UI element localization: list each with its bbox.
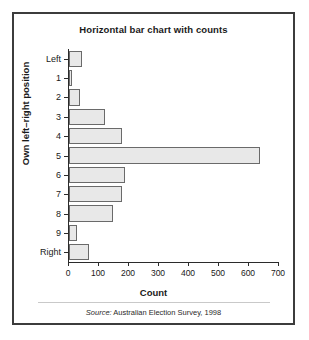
bar-row <box>69 165 279 184</box>
bar-row <box>69 49 279 68</box>
figure-canvas: Horizontal bar chart with counts Left123… <box>0 0 309 340</box>
bar-3 <box>69 109 105 125</box>
y-tick-label-9: 9 <box>56 228 61 238</box>
bar-row <box>69 223 279 242</box>
source-divider <box>38 302 270 303</box>
y-tick <box>64 252 68 253</box>
bar-row <box>69 88 279 107</box>
y-tick-label-right: Right <box>40 247 61 257</box>
source-note: Source: Australian Election Survey, 1998 <box>12 308 295 317</box>
y-tick-label-1: 1 <box>56 73 61 83</box>
x-tick <box>248 262 249 266</box>
bar-row <box>69 146 279 165</box>
source-label: Source: <box>86 308 112 317</box>
x-tick-label-200: 200 <box>121 268 135 278</box>
x-tick <box>158 262 159 266</box>
bar-1 <box>69 70 72 86</box>
y-tick-label-8: 8 <box>56 209 61 219</box>
source-value: Australian Election Survey, 1998 <box>112 308 222 317</box>
bar-7 <box>69 186 122 202</box>
x-tick <box>218 262 219 266</box>
x-tick <box>68 262 69 266</box>
y-tick <box>64 117 68 118</box>
y-tick <box>64 194 68 195</box>
bar-4 <box>69 128 122 144</box>
x-tick-label-700: 700 <box>271 268 285 278</box>
y-tick <box>64 156 68 157</box>
bar-8 <box>69 205 113 221</box>
bar-right <box>69 244 89 260</box>
y-tick <box>64 78 68 79</box>
x-tick <box>188 262 189 266</box>
x-tick-label-0: 0 <box>66 268 71 278</box>
y-tick-label-left: Left <box>46 54 61 64</box>
bar-5 <box>69 147 260 163</box>
bar-9 <box>69 225 77 241</box>
bar-row <box>69 185 279 204</box>
y-tick <box>64 233 68 234</box>
y-tick <box>64 175 68 176</box>
y-axis-title: Own left–right position <box>20 29 31 199</box>
x-tick-label-500: 500 <box>211 268 225 278</box>
y-tick <box>64 59 68 60</box>
plot-area: Left123456789Right 010020030040050060070… <box>68 49 278 262</box>
chart-title: Horizontal bar chart with counts <box>12 24 295 35</box>
x-tick <box>128 262 129 266</box>
y-tick-label-7: 7 <box>56 189 61 199</box>
bar-row <box>69 243 279 262</box>
x-tick-label-400: 400 <box>181 268 195 278</box>
bar-row <box>69 204 279 223</box>
x-tick <box>278 262 279 266</box>
x-axis-title: Count <box>12 287 295 298</box>
bar-series <box>69 49 279 262</box>
y-tick-label-6: 6 <box>56 170 61 180</box>
y-tick <box>64 214 68 215</box>
bar-2 <box>69 89 80 105</box>
y-tick-label-4: 4 <box>56 131 61 141</box>
y-tick <box>64 136 68 137</box>
y-tick <box>64 97 68 98</box>
bar-row <box>69 107 279 126</box>
y-tick-label-5: 5 <box>56 151 61 161</box>
bar-row <box>69 126 279 145</box>
x-tick <box>98 262 99 266</box>
x-tick-label-300: 300 <box>151 268 165 278</box>
y-tick-label-2: 2 <box>56 92 61 102</box>
x-tick-label-600: 600 <box>241 268 255 278</box>
x-tick-label-100: 100 <box>91 268 105 278</box>
bar-row <box>69 68 279 87</box>
y-tick-label-3: 3 <box>56 112 61 122</box>
bar-left <box>69 51 82 67</box>
bar-6 <box>69 167 125 183</box>
